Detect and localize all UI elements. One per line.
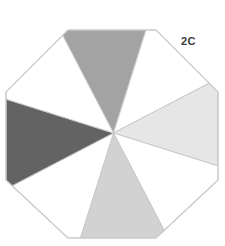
figure-code-label: 2C — [181, 36, 196, 47]
figure-canvas: 2C — [0, 0, 225, 246]
sector-group — [6, 30, 218, 238]
